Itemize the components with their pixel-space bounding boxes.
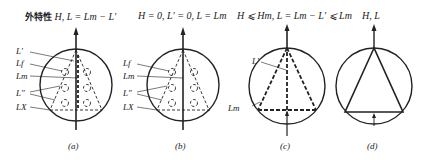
label-a-l-double-prime: L″ <box>16 88 25 98</box>
label-a-lx: LX <box>16 102 27 112</box>
arrow-up-icon <box>285 24 290 31</box>
panel-b-drawing <box>137 27 219 130</box>
label-c-l-prime: L′ <box>252 56 259 66</box>
caption-b: (b) <box>175 141 186 151</box>
diagram-canvas <box>0 0 424 160</box>
panel-c-drawing <box>249 24 325 136</box>
title-cn: 外特性 <box>25 12 52 22</box>
label-b-lx: LX <box>123 102 134 112</box>
label-b-l-double-prime: L″ <box>123 88 132 98</box>
caption-d: (d) <box>367 141 378 151</box>
panel-d-title: H, L <box>362 10 380 21</box>
arrow-up-icon <box>181 27 186 35</box>
label-c-lm: Lm <box>228 103 240 113</box>
panel-c-title: H ⩽ Hm, L = Lm − L′ ⩽ Lm <box>237 10 352 21</box>
label-a-l-prime: L′ <box>16 46 23 56</box>
label-a-lm: Lm <box>16 71 28 81</box>
panel-d-drawing <box>336 24 412 126</box>
title-formula: H, L = Lm − L′ <box>55 11 117 22</box>
caption-a: (a) <box>68 141 79 151</box>
arrow-up-icon <box>372 113 376 118</box>
label-b-lm: Lm <box>123 71 135 81</box>
caption-c: (c) <box>280 141 290 151</box>
panel-a-drawing <box>30 27 112 130</box>
panel-b-title: H = 0, L′ = 0, L = Lm <box>138 10 226 21</box>
label-b-lf: Lf <box>123 58 131 68</box>
arrow-up-icon <box>372 24 377 31</box>
label-a-lf: Lf <box>16 58 24 68</box>
arrow-up-icon <box>74 27 79 35</box>
panel-a-title: 外特性 H, L = Lm − L′ <box>25 10 116 23</box>
